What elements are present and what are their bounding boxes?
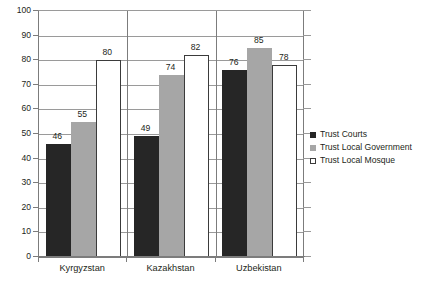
right-tick-10 — [303, 231, 311, 232]
bar-value-uzbekistan-series-0: 76 — [215, 58, 252, 67]
y-tick-label-0: 0 — [1, 252, 31, 261]
legend-item-0: Trust Courts — [310, 129, 412, 140]
bar-kazakhstan-series-1 — [159, 75, 184, 257]
legend-item-1: Trust Local Government — [310, 142, 412, 153]
right-tick-100 — [303, 10, 311, 11]
x-tick — [38, 256, 39, 262]
bar-uzbekistan-series-1 — [247, 48, 272, 257]
bar-kazakhstan-series-2 — [184, 55, 209, 257]
y-tick-label-20: 20 — [1, 203, 31, 212]
bar-value-kazakhstan-series-2: 82 — [177, 43, 214, 52]
x-axis-label-kyrgyzstan: Kyrgyzstan — [38, 264, 126, 273]
y-tick-label-80: 80 — [1, 55, 31, 64]
bar-value-uzbekistan-series-1: 85 — [240, 36, 277, 45]
bar-uzbekistan-series-2 — [272, 65, 297, 257]
y-tick-label-40: 40 — [1, 154, 31, 163]
x-tick — [303, 256, 304, 262]
y-tick-label-60: 60 — [1, 104, 31, 113]
bar-kazakhstan-series-0 — [134, 136, 159, 257]
x-tick — [126, 256, 127, 262]
bar-kyrgyzstan-series-2 — [96, 60, 121, 257]
legend-item-2: Trust Local Mosque — [310, 155, 412, 166]
x-axis-line — [38, 256, 305, 257]
y-axis: 1009080706050403020100 — [0, 0, 31, 296]
bar-uzbekistan-series-0 — [222, 70, 247, 257]
right-tick-80 — [303, 59, 311, 60]
legend: Trust CourtsTrust Local GovernmentTrust … — [310, 129, 412, 168]
bar-value-kazakhstan-series-0: 49 — [127, 124, 164, 133]
y-tick-label-100: 100 — [1, 6, 31, 15]
bar-value-kazakhstan-series-1: 74 — [152, 63, 189, 72]
right-tick-90 — [303, 35, 311, 36]
gridline-0 — [39, 257, 304, 258]
y-tick-label-30: 30 — [1, 178, 31, 187]
right-tick-20 — [303, 207, 311, 208]
bar-chart: 1009080706050403020100 46558049748276857… — [0, 0, 431, 296]
legend-label-1: Trust Local Government — [320, 143, 412, 152]
legend-label-2: Trust Local Mosque — [320, 156, 395, 165]
bar-value-kyrgyzstan-series-1: 55 — [64, 110, 101, 119]
bar-value-kyrgyzstan-series-2: 80 — [89, 48, 126, 57]
bar-kyrgyzstan-series-1 — [71, 122, 96, 257]
y-tick-label-70: 70 — [1, 80, 31, 89]
legend-label-0: Trust Courts — [320, 130, 367, 139]
bar-kyrgyzstan-series-0 — [46, 144, 71, 257]
x-axis-label-kazakhstan: Kazakhstan — [126, 264, 214, 273]
legend-swatch-icon-0 — [310, 132, 316, 138]
x-tick — [215, 256, 216, 262]
legend-swatch-icon-2 — [310, 158, 316, 164]
y-tick-label-10: 10 — [1, 227, 31, 236]
y-tick-label-90: 90 — [1, 31, 31, 40]
bar-value-uzbekistan-series-2: 78 — [265, 53, 302, 62]
right-tick-30 — [303, 182, 311, 183]
x-axis-label-uzbekistan: Uzbekistan — [215, 264, 303, 273]
group-separator — [216, 11, 217, 257]
right-tick-70 — [303, 84, 311, 85]
legend-swatch-icon-1 — [310, 145, 316, 151]
right-tick-60 — [303, 108, 311, 109]
bar-value-kyrgyzstan-series-0: 46 — [39, 132, 76, 141]
group-separator — [127, 11, 128, 257]
y-tick-label-50: 50 — [1, 129, 31, 138]
plot-area — [38, 10, 304, 257]
